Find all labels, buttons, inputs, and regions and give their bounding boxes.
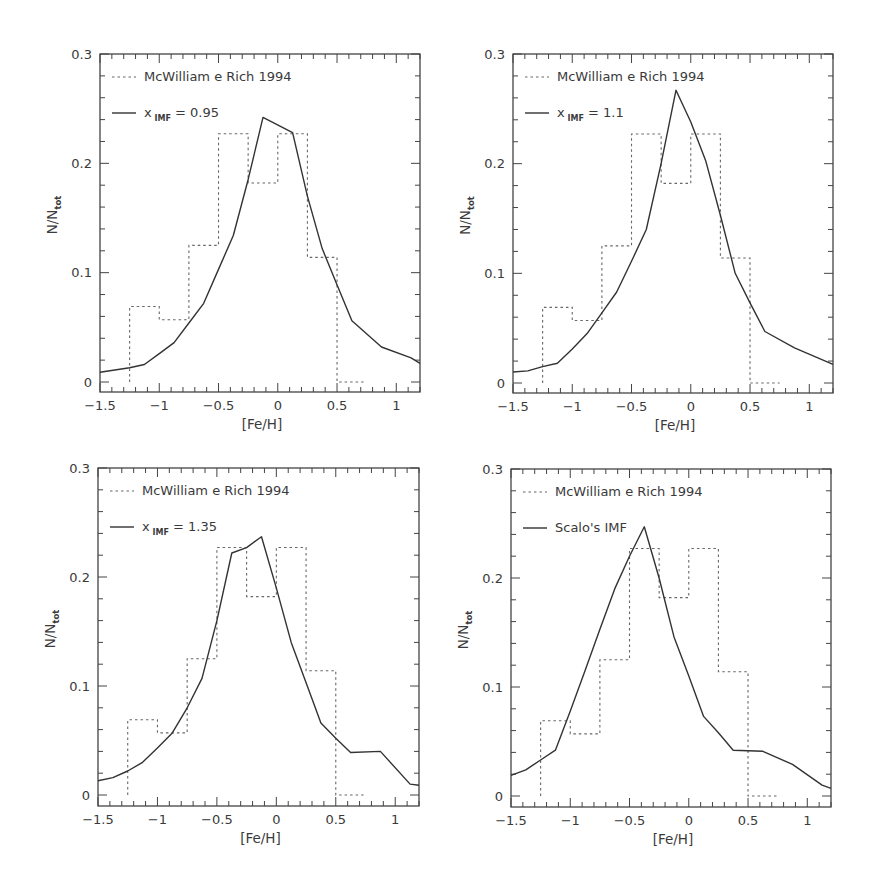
x-axis-label: [Fe/H] xyxy=(655,417,696,433)
x-tick-label: −1.5 xyxy=(82,812,114,827)
x-tick-label: −1 xyxy=(148,812,167,827)
observed-histogram xyxy=(128,548,366,795)
legend-observed-label: McWilliam e Rich 1994 xyxy=(144,69,292,84)
panel-bottom-right: −1.5−1−0.500.5100.10.20.3[Fe/H]N/NtotMcW… xyxy=(455,462,831,848)
x-tick-label: −1 xyxy=(563,399,582,414)
legend-model-label: x IMF = 1.1 xyxy=(557,105,624,123)
model-curve xyxy=(511,527,831,789)
legend: McWilliam e Rich 1994x IMF = 1.1 xyxy=(525,69,705,123)
legend-observed-label: McWilliam e Rich 1994 xyxy=(142,483,290,498)
y-tick-label: 0 xyxy=(84,375,92,390)
x-tick-label: 1 xyxy=(805,399,813,414)
x-tick-label: 1 xyxy=(391,812,399,827)
y-tick-label: 0.2 xyxy=(484,156,505,171)
y-axis-label: N/Ntot xyxy=(457,196,476,235)
four-panel-chart: −1.5−1−0.500.5100.10.20.3[Fe/H]N/NtotMcW… xyxy=(0,0,875,888)
y-axis-label: N/Ntot xyxy=(44,196,63,235)
x-tick-label: −1.5 xyxy=(495,813,527,828)
y-tick-label: 0 xyxy=(495,789,503,804)
observed-histogram xyxy=(541,549,778,796)
y-tick-label: 0.1 xyxy=(482,680,503,695)
x-tick-label: 0 xyxy=(685,813,693,828)
x-tick-label: 0.5 xyxy=(325,812,346,827)
legend-observed-label: McWilliam e Rich 1994 xyxy=(557,69,705,84)
legend-model-label: x IMF = 1.35 xyxy=(142,519,217,537)
x-axis-label: [Fe/H] xyxy=(653,831,694,847)
model-curve xyxy=(513,90,833,372)
y-tick-label: 0.1 xyxy=(484,266,505,281)
y-tick-label: 0 xyxy=(82,788,90,803)
y-axis-ticks xyxy=(100,54,420,382)
legend-observed-label: McWilliam e Rich 1994 xyxy=(555,484,703,499)
observed-histogram xyxy=(543,134,780,383)
y-tick-label: 0.2 xyxy=(482,571,503,586)
x-axis-label: [Fe/H] xyxy=(242,416,283,432)
x-tick-label: −1 xyxy=(150,398,169,413)
x-tick-label: −0.5 xyxy=(614,813,646,828)
figure: −1.5−1−0.500.5100.10.20.3[Fe/H]N/NtotMcW… xyxy=(0,0,875,888)
observed-histogram xyxy=(130,134,367,382)
y-tick-label: 0.3 xyxy=(69,461,90,476)
y-axis-label: N/Ntot xyxy=(455,611,474,650)
y-tick-label: 0.2 xyxy=(71,156,92,171)
y-axis-label: N/Ntot xyxy=(42,610,61,649)
legend-model-label: Scalo's IMF xyxy=(555,520,627,535)
panel-bottom-left: −1.5−1−0.500.5100.10.20.3[Fe/H]N/NtotMcW… xyxy=(42,461,419,847)
model-curve xyxy=(98,537,419,786)
legend: McWilliam e Rich 1994Scalo's IMF xyxy=(523,484,703,535)
x-tick-label: −1 xyxy=(561,813,580,828)
y-axis-ticks xyxy=(511,469,831,796)
x-tick-label: 0.5 xyxy=(327,398,348,413)
x-tick-label: 0.5 xyxy=(738,813,759,828)
x-tick-label: −0.5 xyxy=(201,812,233,827)
x-tick-label: 0.5 xyxy=(740,399,761,414)
y-tick-label: 0.3 xyxy=(484,47,505,62)
y-axis-ticks xyxy=(98,468,419,795)
x-tick-label: −1.5 xyxy=(497,399,529,414)
x-tick-label: −0.5 xyxy=(203,398,235,413)
legend: McWilliam e Rich 1994x IMF = 0.95 xyxy=(112,69,292,123)
x-tick-label: 1 xyxy=(803,813,811,828)
x-axis-label: [Fe/H] xyxy=(240,830,281,846)
y-tick-label: 0 xyxy=(497,376,505,391)
x-tick-label: 0 xyxy=(272,812,280,827)
x-tick-label: 0 xyxy=(687,399,695,414)
x-tick-label: 0 xyxy=(274,398,282,413)
x-tick-label: −1.5 xyxy=(84,398,116,413)
x-tick-label: 1 xyxy=(392,398,400,413)
y-tick-label: 0.3 xyxy=(71,47,92,62)
legend: McWilliam e Rich 1994x IMF = 1.35 xyxy=(110,483,290,537)
y-tick-label: 0.1 xyxy=(69,679,90,694)
legend-model-label: x IMF = 0.95 xyxy=(144,105,219,123)
model-curve xyxy=(100,117,420,372)
y-tick-label: 0.3 xyxy=(482,462,503,477)
y-tick-label: 0.1 xyxy=(71,265,92,280)
y-tick-label: 0.2 xyxy=(69,570,90,585)
x-tick-label: −0.5 xyxy=(616,399,648,414)
panel-top-left: −1.5−1−0.500.5100.10.20.3[Fe/H]N/NtotMcW… xyxy=(44,47,420,433)
panel-top-right: −1.5−1−0.500.5100.10.20.3[Fe/H]N/NtotMcW… xyxy=(457,47,833,434)
